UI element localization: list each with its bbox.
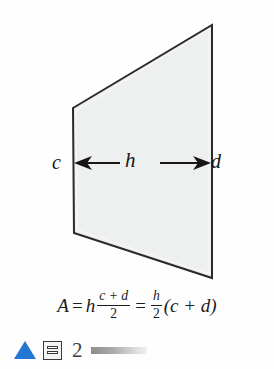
footer-toolbar: 2 [14, 336, 147, 364]
formula-fraction-2: h2 [151, 289, 162, 322]
formula-fraction-2-numerator: h [151, 289, 162, 306]
formula-h-1: h [86, 295, 96, 316]
formula-area-symbol: A [57, 295, 69, 316]
trapezoid-figure: c h d [0, 0, 274, 292]
label-side-c: c [52, 152, 61, 172]
formula-fraction-1: c + d2 [97, 289, 130, 322]
frame-icon-bar-top [47, 346, 58, 349]
trapezoid-graphic [0, 0, 274, 292]
formula-fraction-2-denominator: 2 [151, 306, 162, 322]
frame-icon-bar-bottom [47, 351, 58, 354]
triangle-icon[interactable] [14, 341, 36, 359]
page-number: 2 [72, 338, 83, 363]
page-canvas: c h d A=hc + d2=h2(c + d) 2 [0, 0, 274, 369]
formula-grouped-term: (c + d) [164, 295, 217, 316]
formula-fraction-1-denominator: 2 [97, 306, 130, 322]
formula-fraction-1-numerator: c + d [97, 289, 130, 306]
frame-icon[interactable] [43, 341, 62, 360]
formula-equals-1: = [69, 295, 86, 316]
trapezoid-shape [73, 25, 212, 278]
formula-equals-2: = [132, 295, 149, 316]
area-formula: A=hc + d2=h2(c + d) [0, 289, 274, 322]
label-side-d: d [211, 151, 221, 171]
gradient-bar [91, 347, 147, 354]
label-width-h: h [125, 150, 136, 171]
